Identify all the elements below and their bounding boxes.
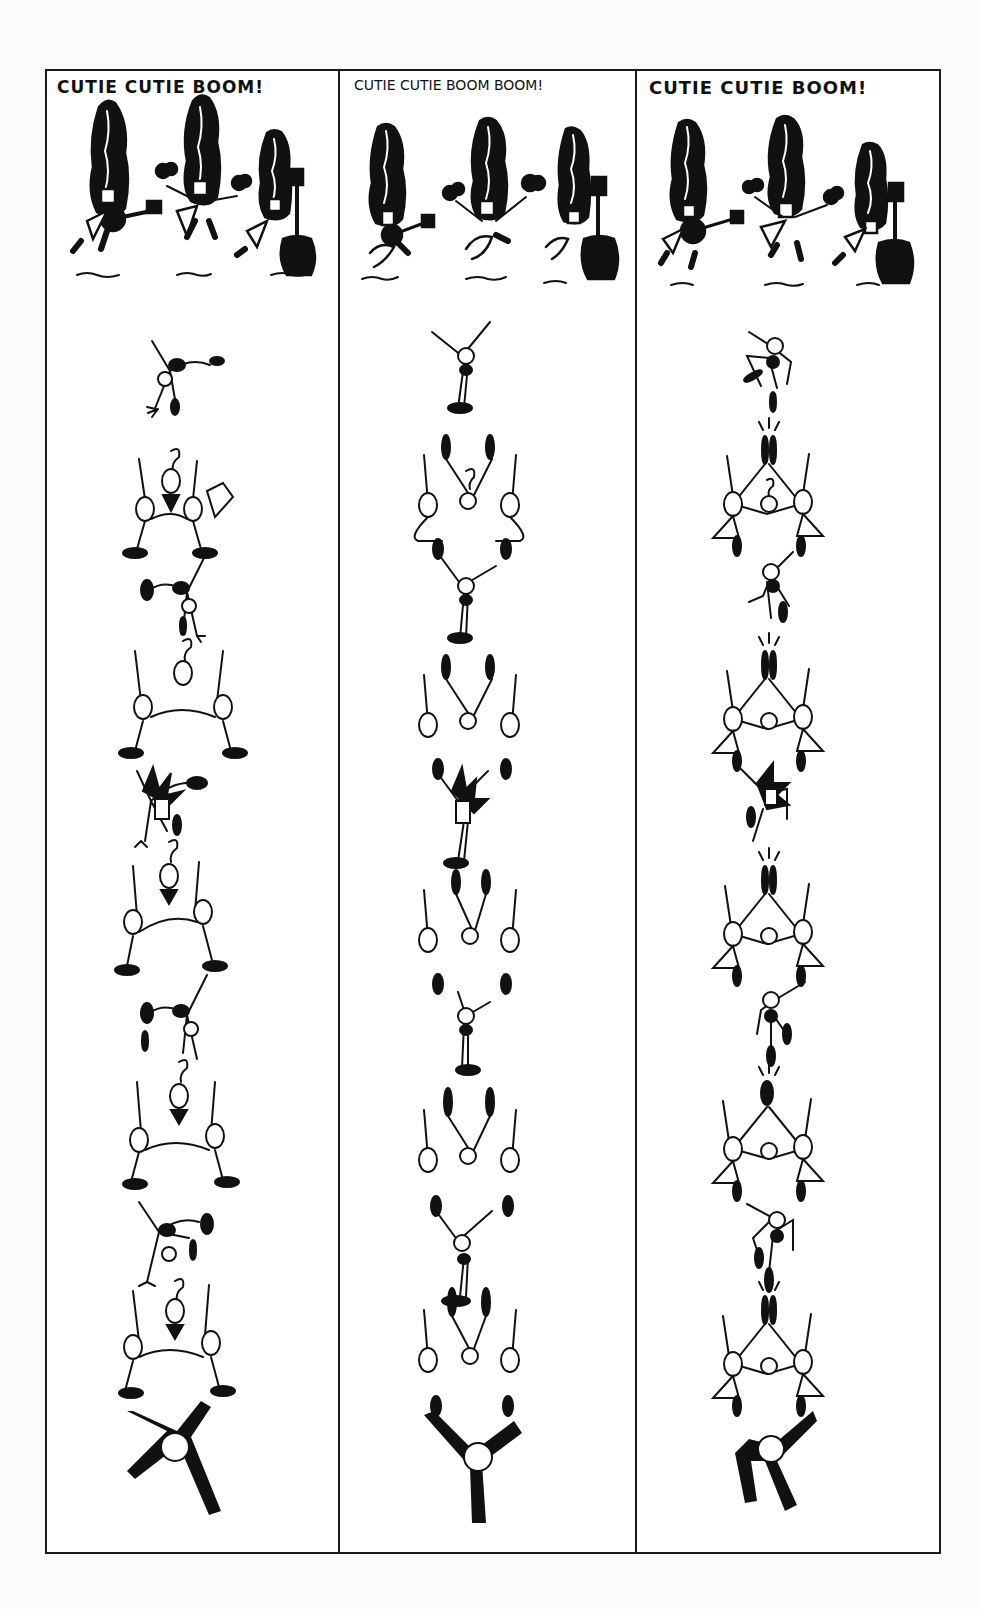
maracas-player-icon [743,116,843,286]
band-scene [661,116,913,286]
acrobat-standing-icon [432,322,490,413]
column-3-illustration [637,71,939,1556]
column-2-illustration [340,71,637,1556]
pyramid-handstand-icon [419,1088,519,1216]
upright-bass-player-icon [835,143,913,285]
pyramid-impact-icon [713,633,823,771]
pyramid-icon [123,449,233,558]
acrobat-pyramid-sequence [115,341,247,1515]
tumbling-figure-icon [424,1411,522,1523]
pyramid-handstand-icon [419,870,519,994]
acrobat-standing-icon [440,556,496,643]
pyramid-impact-icon [713,848,823,986]
tumbling-figure-icon [735,1411,817,1511]
pyramid-handstand-icon [419,1288,519,1416]
maracas-player-icon [156,96,251,276]
pyramid-icon [123,1060,239,1189]
comic-column-2: CUTIE CUTIE BOOM BOOM! [340,71,637,1552]
acrobat-icon [139,1202,213,1286]
acrobat-pyramid-sequence [713,332,823,1511]
pyramid-impact-icon [713,418,823,556]
pyramid-icon [115,840,227,975]
upright-bass-player-icon [237,130,315,276]
guitar-player-icon [362,124,434,280]
maracas-player-icon [443,118,545,280]
band-scene [362,118,618,283]
guitar-player-icon [661,120,743,285]
column-1-illustration [47,71,340,1556]
acrobat-kicking-icon [757,982,805,1066]
acrobat-standing-icon [456,992,490,1075]
acrobat-spiky-hair-icon [436,767,488,868]
tumbling-figure-icon [127,1401,221,1515]
pyramid-handstand-icon [415,435,524,559]
pyramid-handstand-icon [419,655,519,779]
acrobat-kicking-icon [749,552,793,622]
pyramid-icon [119,639,247,758]
upright-bass-player-icon [544,127,618,283]
comic-frame: CUTIE CUTIE BOOM! [45,69,941,1554]
pyramid-impact-icon [713,1063,823,1201]
guitar-player-icon [73,101,161,277]
acrobat-spiky-hair-icon [741,763,789,841]
comic-column-1: CUTIE CUTIE BOOM! [47,71,340,1552]
acrobat-icon [141,552,207,642]
comic-column-3: CUTIE CUTIE BOOM! [637,71,939,1552]
acrobat-icon [141,975,207,1059]
acrobat-icon [147,341,224,417]
pyramid-icon [119,1279,235,1398]
pyramid-impact-icon [713,1278,823,1416]
acrobat-pyramid-sequence [415,322,524,1523]
acrobat-kicking-icon [743,332,791,412]
band-scene [73,96,315,277]
acrobat-spiky-hair-icon [135,767,207,847]
